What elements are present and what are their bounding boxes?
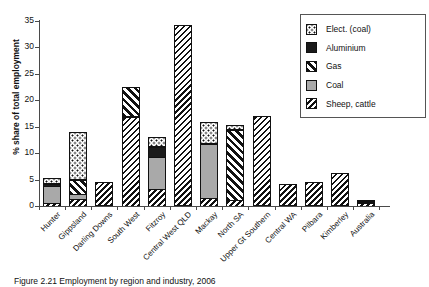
bar-segment-sheep bbox=[122, 117, 140, 206]
bar-segment-aluminium bbox=[43, 184, 61, 187]
bar-upper-gt-southern[interactable] bbox=[253, 116, 271, 206]
legend-item-sheep[interactable]: Sheep, cattle bbox=[306, 94, 426, 113]
bar-segment-coal bbox=[43, 186, 61, 202]
bar-segment-sheep bbox=[69, 199, 87, 206]
bar-segment-sheep bbox=[43, 203, 61, 206]
bar-segment-gas bbox=[122, 87, 140, 117]
bar-segment-gas bbox=[226, 130, 244, 200]
bar-segment-sheep bbox=[357, 203, 375, 206]
y-tick-label: 15 bbox=[0, 122, 34, 131]
x-tick-mark bbox=[196, 206, 197, 210]
bar-pilbara[interactable] bbox=[305, 182, 323, 206]
figure-caption: Figure 2.21 Employment by region and ind… bbox=[14, 276, 216, 286]
x-tick-label: Fitzroy bbox=[144, 210, 167, 233]
legend-swatch-gas-icon bbox=[306, 61, 317, 72]
legend-item-coal[interactable]: Coal bbox=[306, 76, 426, 95]
legend-swatch-sheep-icon bbox=[306, 98, 317, 109]
bar-segment-elect bbox=[148, 137, 166, 147]
bar-segment-sheep bbox=[331, 173, 349, 206]
bar-hunter[interactable] bbox=[43, 178, 61, 206]
x-tick-mark bbox=[222, 206, 223, 210]
legend-swatch-elect-icon bbox=[306, 24, 317, 35]
bar-segment-sheep bbox=[226, 200, 244, 206]
bar-segment-sheep bbox=[253, 116, 271, 206]
bar-segment-elect bbox=[357, 200, 375, 202]
plot-area bbox=[39, 21, 288, 206]
x-tick-mark bbox=[144, 206, 145, 210]
legend-label: Aluminium bbox=[326, 43, 366, 53]
bar-gippsland[interactable] bbox=[69, 132, 87, 206]
bar-fitzroy[interactable] bbox=[148, 137, 166, 206]
y-tick-label: 25 bbox=[0, 69, 34, 78]
y-tick-label: 30 bbox=[0, 42, 34, 51]
bar-segment-sheep bbox=[200, 198, 218, 206]
y-tick-label: 20 bbox=[0, 95, 34, 104]
bar-central-wa[interactable] bbox=[279, 184, 297, 206]
y-tick-label: 35 bbox=[0, 16, 34, 25]
x-tick-mark bbox=[275, 206, 276, 210]
bar-segment-coal bbox=[357, 202, 375, 203]
x-tick-mark bbox=[91, 206, 92, 210]
legend-label: Gas bbox=[326, 61, 342, 71]
legend-swatch-aluminium-icon bbox=[306, 42, 317, 53]
bar-segment-coal bbox=[200, 144, 218, 198]
bar-south-west[interactable] bbox=[122, 87, 140, 206]
x-tick-mark bbox=[327, 206, 328, 210]
chart-figure: % share of total employment 051015202530… bbox=[0, 0, 429, 287]
bar-segment-coal bbox=[148, 157, 166, 189]
chart-legend: Elect. (coal)AluminiumGasCoalSheep, catt… bbox=[306, 20, 426, 113]
legend-item-elect[interactable]: Elect. (coal) bbox=[306, 20, 426, 39]
bar-segment-coal bbox=[69, 194, 87, 199]
x-tick-mark bbox=[170, 206, 171, 210]
bar-kimberley[interactable] bbox=[331, 173, 349, 206]
x-tick-mark bbox=[65, 206, 66, 210]
bar-segment-elect bbox=[226, 125, 244, 130]
y-tick-label: 0 bbox=[0, 201, 34, 210]
bar-australia[interactable] bbox=[357, 200, 375, 206]
bar-segment-sheep bbox=[95, 182, 113, 206]
x-tick-label: Pilbara bbox=[300, 210, 324, 234]
bar-segment-elect bbox=[69, 132, 87, 180]
bar-segment-gas bbox=[69, 180, 87, 194]
legend-swatch-coal-icon bbox=[306, 80, 317, 91]
bar-segment-aluminium bbox=[148, 147, 166, 157]
bar-segment-sheep bbox=[305, 182, 323, 206]
x-tick-mark bbox=[301, 206, 302, 210]
legend-label: Sheep, cattle bbox=[326, 99, 376, 109]
y-tick-label: 10 bbox=[0, 148, 34, 157]
bar-segment-elect bbox=[43, 178, 61, 184]
y-tick-label: 5 bbox=[0, 175, 34, 184]
legend-label: Coal bbox=[326, 80, 343, 90]
x-tick-mark bbox=[248, 206, 249, 210]
x-tick-label: Hunter bbox=[39, 210, 62, 233]
x-tick-label: Central West QLD bbox=[141, 210, 193, 262]
x-tick-mark bbox=[379, 206, 380, 210]
bar-mackay[interactable] bbox=[200, 122, 218, 206]
bar-central-west-qld[interactable] bbox=[174, 25, 192, 206]
bar-segment-sheep bbox=[174, 25, 192, 206]
legend-item-aluminium[interactable]: Aluminium bbox=[306, 39, 426, 58]
x-tick-label: Australia bbox=[348, 210, 376, 238]
bar-segment-elect bbox=[200, 122, 218, 144]
bar-segment-sheep bbox=[279, 184, 297, 206]
legend-label: Elect. (coal) bbox=[326, 24, 371, 34]
bar-darling-downs[interactable] bbox=[95, 182, 113, 206]
x-tick-mark bbox=[353, 206, 354, 210]
bar-north-sa[interactable] bbox=[226, 125, 244, 206]
legend-item-gas[interactable]: Gas bbox=[306, 57, 426, 76]
x-tick-mark bbox=[39, 206, 40, 210]
x-tick-mark bbox=[117, 206, 118, 210]
bar-segment-sheep bbox=[148, 189, 166, 206]
